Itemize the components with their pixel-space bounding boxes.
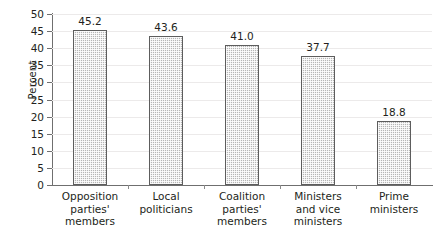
- category-label-line: ministers: [276, 215, 360, 228]
- category-label-line: Ministers: [276, 190, 360, 203]
- gridline: [52, 14, 432, 15]
- x-axis-tick-mark: [128, 185, 129, 189]
- bar[interactable]: [225, 45, 259, 185]
- bar-value-label: 41.0: [212, 31, 272, 42]
- y-axis-tick-label: 5: [13, 163, 44, 173]
- bar-value-label: 37.7: [288, 42, 348, 53]
- bar-value-label: 18.8: [364, 107, 424, 118]
- x-axis-category-label: Ministersand viceministers: [276, 190, 360, 228]
- y-axis-tick-label: 20: [13, 112, 44, 122]
- y-axis-tick-label: 0: [13, 180, 44, 190]
- category-label-line: politicians: [124, 203, 208, 216]
- category-label-line: ministers: [352, 203, 436, 216]
- y-axis-tick-label: 30: [13, 77, 44, 87]
- x-axis-tick-mark: [356, 185, 357, 189]
- category-label-line: parties': [200, 203, 284, 216]
- bar-chart-figure: Percent 50454035302520151050 45.243.641.…: [0, 0, 447, 235]
- bar[interactable]: [73, 30, 107, 185]
- y-axis-tick-mark: [47, 185, 52, 186]
- category-label-line: members: [200, 215, 284, 228]
- bar[interactable]: [301, 56, 335, 185]
- category-label-line: members: [48, 215, 132, 228]
- category-label-line: Local: [124, 190, 208, 203]
- bar-value-label: 43.6: [136, 22, 196, 33]
- category-label-line: parties': [48, 203, 132, 216]
- category-label-line: and vice: [276, 203, 360, 216]
- y-axis-tick-label: 50: [13, 9, 44, 19]
- bar[interactable]: [377, 121, 411, 185]
- y-axis-tick-label: 40: [13, 43, 44, 53]
- y-axis-tick-label: 10: [13, 146, 44, 156]
- y-axis-tick-label: 25: [13, 95, 44, 105]
- category-label-line: Opposition: [48, 190, 132, 203]
- bar-value-label: 45.2: [60, 16, 120, 27]
- x-axis-category-label: Primeministers: [352, 190, 436, 215]
- x-axis-category-label: Localpoliticians: [124, 190, 208, 215]
- x-axis-line: [52, 185, 433, 186]
- y-axis-tick-label: 35: [13, 60, 44, 70]
- y-axis-tick-label: 15: [13, 129, 44, 139]
- x-axis-category-label: Coalitionparties'members: [200, 190, 284, 228]
- x-axis-tick-mark: [280, 185, 281, 189]
- category-label-line: Prime: [352, 190, 436, 203]
- x-axis-category-label: Oppositionparties'members: [48, 190, 132, 228]
- x-axis-tick-mark: [204, 185, 205, 189]
- bar[interactable]: [149, 36, 183, 185]
- y-axis-tick-label: 45: [13, 26, 44, 36]
- category-label-line: Coalition: [200, 190, 284, 203]
